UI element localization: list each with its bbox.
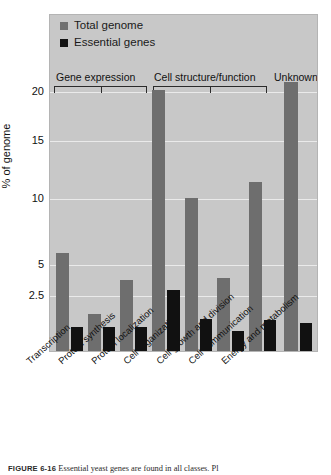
- y-tick-2p5: 2.5: [0, 289, 44, 301]
- figure-caption-tag: FIGURE 6-16: [8, 464, 56, 473]
- gridline-5: [50, 265, 317, 266]
- bracket-tick: [210, 86, 211, 93]
- legend-swatch-icon: [60, 39, 68, 47]
- gridline-15: [50, 141, 317, 142]
- chart-legend: Total genome Essential genes: [60, 18, 155, 52]
- group-label-gene-expression: Gene expression: [56, 71, 135, 83]
- group-bracket-gene-expression: [54, 86, 147, 93]
- figure-caption: FIGURE 6-16 Essential yeast genes are fo…: [8, 464, 327, 475]
- figure-caption-text: Essential yeast genes are found in all c…: [58, 464, 218, 473]
- legend-swatch-icon: [60, 22, 68, 30]
- y-axis-label: % of genome: [0, 124, 12, 189]
- legend-label-essential-genes: Essential genes: [74, 37, 155, 48]
- group-bracket-cell-structure-function: [153, 86, 267, 93]
- legend-item-total-genome: Total genome: [60, 18, 155, 33]
- y-tick-10: 10: [0, 192, 44, 204]
- y-tick-20: 20: [0, 85, 44, 97]
- legend-item-essential-genes: Essential genes: [60, 35, 155, 50]
- figure-container: Gene expression Cell structure/function …: [0, 0, 331, 475]
- gridline-10: [50, 199, 317, 200]
- bar-essential-unknown: [300, 323, 312, 351]
- bracket-tick: [101, 86, 102, 93]
- legend-label-total-genome: Total genome: [74, 20, 143, 31]
- gridline-2p5: [50, 296, 317, 297]
- y-tick-5: 5: [0, 258, 44, 270]
- group-label-cell-structure-function: Cell structure/function: [154, 71, 256, 83]
- chart-plot-area: Gene expression Cell structure/function …: [49, 14, 318, 352]
